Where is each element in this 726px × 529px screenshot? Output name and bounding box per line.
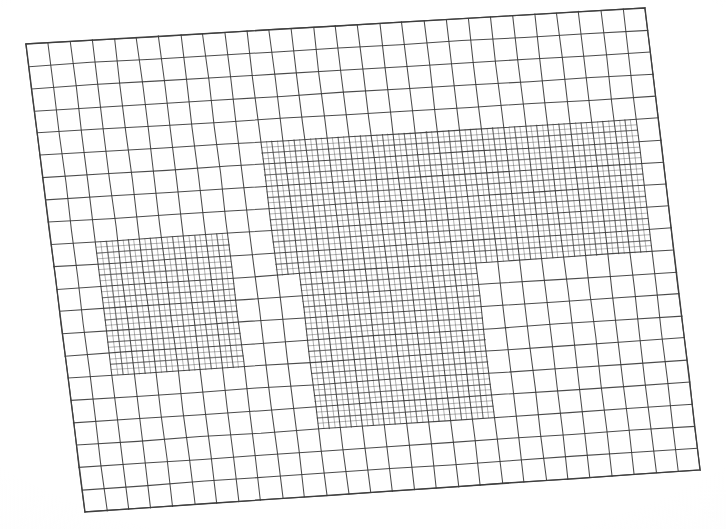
mesh-figure: [0, 0, 726, 529]
mesh-plot-canvas: [0, 0, 726, 529]
